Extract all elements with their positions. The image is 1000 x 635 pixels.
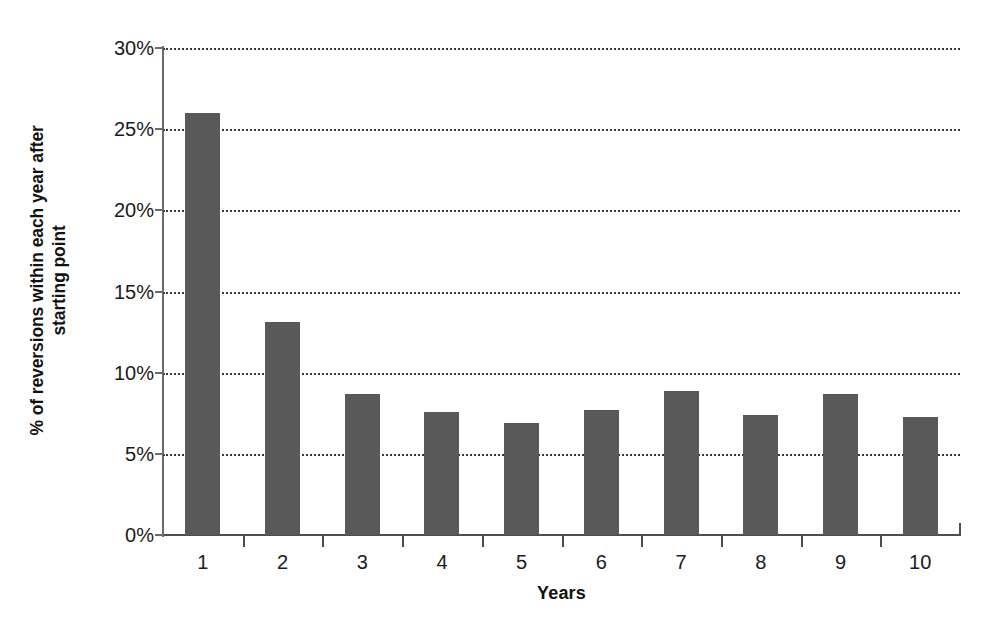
y-axis-tick-label: 30% [92,37,154,60]
y-axis-tick-label: 5% [92,442,154,465]
y-axis-tickmark [155,453,164,455]
bar-chart: % of reversions within each year after s… [0,0,1000,635]
x-axis-tickmark [402,536,404,547]
y-axis-tickmark [155,128,164,130]
y-axis-tickmark [155,372,164,374]
x-axis-tickmark [880,536,882,547]
bar [345,394,380,535]
y-axis-tickmark [155,534,164,536]
x-axis-tick-label: 8 [721,551,801,574]
x-axis-tickmark [721,536,723,547]
gridline [163,48,960,50]
x-axis-tick-label: 7 [641,551,721,574]
x-axis-tick-label: 6 [561,551,641,574]
y-axis-title: % of reversions within each year after s… [0,0,96,560]
y-axis-tick-label: 25% [92,118,154,141]
bar [664,391,699,535]
x-axis-tick-label: 9 [800,551,880,574]
x-axis-tick-label: 3 [322,551,402,574]
bar [584,410,619,535]
plot-area [163,48,960,535]
x-axis-tickmark [322,536,324,547]
x-axis-tick-label: 10 [880,551,960,574]
y-axis-tick-label: 20% [92,199,154,222]
bar [743,415,778,535]
bar [424,412,459,535]
x-axis-tickmark [243,536,245,547]
x-axis-tick-label: 4 [402,551,482,574]
gridline [163,129,960,131]
y-axis-tick-label: 10% [92,361,154,384]
x-axis-tickmark [641,536,643,547]
gridline [163,210,960,212]
x-axis-tickmark [562,536,564,547]
bar [903,417,938,536]
y-axis-tickmark [155,291,164,293]
x-axis-tick-label: 5 [482,551,562,574]
y-axis-title-line2: starting point [48,125,70,435]
y-axis-tickmark [155,47,164,49]
x-axis-tickmark [482,536,484,547]
y-axis-tick-label: 15% [92,280,154,303]
x-axis-tickmark [801,536,803,547]
y-axis-tickmark [155,209,164,211]
bar [185,113,220,535]
gridline [163,292,960,294]
y-axis-title-line1: % of reversions within each year after [26,125,48,435]
bar [265,322,300,535]
x-axis-title: Years [163,583,960,604]
x-axis-tick-label: 1 [163,551,243,574]
y-axis-tick-label: 0% [92,524,154,547]
bar [823,394,858,535]
bar [504,423,539,535]
y-axis-tick-labels: 0%5%10%15%20%25%30% [92,0,154,635]
x-axis-tick-label: 2 [243,551,323,574]
